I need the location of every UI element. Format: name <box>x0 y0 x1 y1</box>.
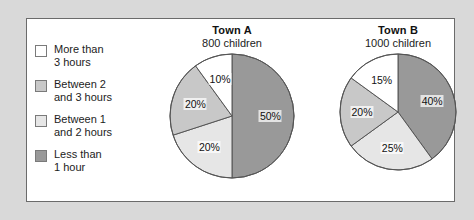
legend-swatch-between-1-and-2-hours <box>35 115 47 127</box>
legend-swatch-less-than-1-hour <box>35 150 47 162</box>
pie-slice-label: 15% <box>370 74 393 86</box>
legend-swatch-more-than-3-hours <box>35 45 47 57</box>
chart-panel: More than 3 hours Between 2 and 3 hours … <box>26 18 455 202</box>
legend-item: Less than 1 hour <box>35 148 145 173</box>
pie-graphic-town-b: 40%25%20%15% <box>339 53 457 171</box>
legend-item: Between 2 and 3 hours <box>35 78 145 103</box>
legend-swatch-between-2-and-3-hours <box>35 80 47 92</box>
legend: More than 3 hours Between 2 and 3 hours … <box>35 43 145 183</box>
pie-slice-label: 20% <box>198 141 221 153</box>
chart-title-town-b: Town B <box>323 24 473 36</box>
pie-slice-label: 40% <box>421 95 444 107</box>
chart-subtitle-town-a: 800 children <box>157 37 307 49</box>
pie-graphic-town-a: 50%20%20%10% <box>169 53 295 179</box>
pie-slice-label: 50% <box>259 110 282 122</box>
pie-slice-label: 20% <box>351 106 374 118</box>
chart-subtitle-town-b: 1000 children <box>323 37 473 49</box>
pie-slice-label: 20% <box>184 98 207 110</box>
legend-label-less-than-1-hour: Less than 1 hour <box>54 148 102 173</box>
pie-slice-label: 10% <box>209 73 232 85</box>
legend-label-between-1-and-2-hours: Between 1 and 2 hours <box>54 113 112 138</box>
legend-item: Between 1 and 2 hours <box>35 113 145 138</box>
pie-chart-town-a: Town A 800 children 50%20%20%10% <box>157 24 307 179</box>
pie-chart-town-b: Town B 1000 children 40%25%20%15% <box>323 24 473 171</box>
legend-label-between-2-and-3-hours: Between 2 and 3 hours <box>54 78 112 103</box>
legend-item: More than 3 hours <box>35 43 145 68</box>
pie-slice-label: 25% <box>381 142 404 154</box>
legend-label-more-than-3-hours: More than 3 hours <box>54 43 104 68</box>
chart-title-town-a: Town A <box>157 24 307 36</box>
